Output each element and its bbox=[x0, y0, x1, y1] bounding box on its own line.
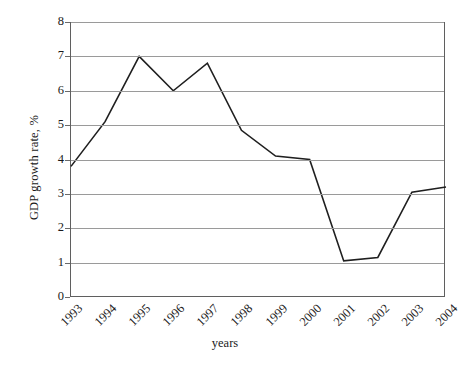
x-tick-label-2003: 2003 bbox=[399, 302, 426, 329]
x-tick-label-1995: 1995 bbox=[126, 302, 153, 329]
x-tick-label-2000: 2000 bbox=[297, 302, 324, 329]
x-tick-label-2002: 2002 bbox=[365, 302, 392, 329]
x-tick-label-1997: 1997 bbox=[195, 302, 222, 329]
x-tick-label-2004: 2004 bbox=[433, 302, 460, 329]
x-axis-tick-labels: 1993199419951996199719981999200020012002… bbox=[0, 0, 466, 367]
gdp-growth-rate-line-chart: GDP growth rate, % 012345678 19931994199… bbox=[0, 0, 466, 367]
x-tick-label-1994: 1994 bbox=[92, 302, 119, 329]
x-tick-label-1993: 1993 bbox=[58, 302, 85, 329]
x-axis-title: years bbox=[70, 336, 380, 351]
x-tick-label-1999: 1999 bbox=[263, 302, 290, 329]
x-tick-label-1996: 1996 bbox=[161, 302, 188, 329]
x-tick-label-2001: 2001 bbox=[331, 302, 358, 329]
x-tick-label-1998: 1998 bbox=[229, 302, 256, 329]
